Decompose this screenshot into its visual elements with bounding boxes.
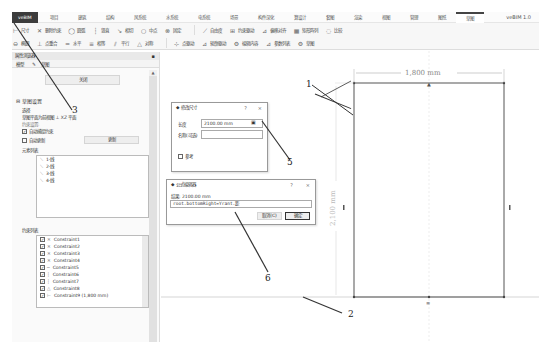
list-item[interactable]: ✓✕Constraint3 [37, 250, 148, 257]
checkbox-checked[interactable]: ✓ [40, 279, 45, 284]
param-icon: ⊿ [265, 40, 272, 47]
tab-view[interactable]: 视图 [372, 12, 400, 23]
list-item[interactable]: ✓✕Constraint4 [37, 257, 148, 264]
list-item[interactable]: ⟍2-线 [37, 163, 148, 170]
tab-project[interactable]: 项目 [40, 12, 68, 23]
tool-edit-content[interactable]: ⚙编辑内容 [233, 40, 258, 47]
list-item[interactable]: ⟍1-线 [37, 156, 148, 163]
list-item[interactable]: ⟍4-线 [37, 177, 148, 184]
close-button[interactable]: × [306, 180, 310, 190]
checkbox-checked[interactable]: ✓ [40, 244, 45, 249]
constraint-label: Constraint8 [53, 286, 79, 291]
tool-dimension[interactable]: ⊢尺寸 [12, 27, 29, 34]
pin-icon[interactable]: ▪ [152, 52, 155, 60]
tool-vertical[interactable]: ┆竖直 [92, 27, 109, 34]
tool-horizontal[interactable]: ═水平 [64, 40, 81, 47]
dimension-icon: ⊢ [12, 27, 19, 34]
tab-file[interactable]: veBIM [12, 12, 38, 23]
tab-water-system[interactable]: 水系统 [156, 12, 188, 23]
reference-checkbox[interactable]: 参考 [178, 153, 193, 159]
list-item[interactable]: ✓△Constraint8 [37, 285, 148, 292]
tool-rect-array[interactable]: ▦矩形阵列 [293, 27, 318, 34]
tool-midpoint[interactable]: ○中点 [140, 27, 157, 34]
tab-drawings[interactable]: 图纸 [428, 12, 456, 23]
checkbox-checked[interactable]: ✓ [40, 251, 45, 256]
list-scrollbar[interactable] [142, 236, 148, 307]
help-button[interactable]: ? [290, 180, 293, 190]
tool-compare[interactable]: ◌比较 [325, 27, 342, 34]
sketch-settings-header[interactable]: ⊟ 草图设置 [16, 97, 42, 104]
tab-sketch[interactable]: 草图 [456, 12, 484, 23]
tool-coincident[interactable]: ⊥点重合 [36, 40, 57, 47]
panel-tab-sketch[interactable]: ✎ 草图 [28, 61, 57, 67]
equal-icon: ≡ [88, 40, 95, 47]
help-button[interactable]: ? [244, 103, 247, 113]
panel-scrollbar[interactable]: ▲ [149, 70, 157, 342]
tab-electric-system[interactable]: 电系统 [188, 12, 220, 23]
perpendicular-icon: ✕ [47, 244, 51, 249]
callout-2: 2 [348, 309, 354, 319]
elements-list[interactable]: ⟍1-线 ⟍2-线 ⟍3-线 ⟍4-线 [36, 155, 149, 218]
checkbox-checked[interactable]: ✓ [22, 129, 27, 134]
tool-profile-driven[interactable]: ⊿轮廓驱动 [201, 40, 226, 47]
list-item[interactable]: ✓✕Constraint2 [37, 243, 148, 250]
update-button[interactable]: 更新 [84, 136, 139, 144]
formula-input[interactable]: root.bottomRight=Yrant.距 [170, 200, 312, 208]
tool-symmetric[interactable]: △对称 [136, 40, 153, 47]
close-button[interactable]: × [258, 103, 262, 113]
tool-constraint-driven[interactable]: ⊞约束驱动 [229, 27, 254, 34]
tool-arc[interactable]: ◯圆弧 [68, 27, 85, 34]
checkbox-checked[interactable]: ✓ [40, 272, 45, 277]
list-item[interactable]: ✓┆Constraint6 [37, 271, 148, 278]
tool-delete-constraint[interactable]: ✕删除约束 [36, 27, 61, 34]
checkbox-unchecked[interactable] [22, 138, 27, 143]
perpendicular-icon: ✕ [47, 251, 51, 256]
scroll-up-icon[interactable]: ▲ [149, 70, 157, 76]
height-dimension[interactable]: 2,100 mm [329, 190, 337, 226]
auto-constraint-checkbox[interactable]: ✓自动捕捉约束 [22, 128, 53, 134]
tool-equal[interactable]: ≡相等 [88, 40, 105, 47]
tab-structure[interactable]: 结构 [96, 12, 124, 23]
checkbox-checked[interactable]: ✓ [40, 286, 45, 291]
tab-design[interactable]: 算设计 [284, 12, 316, 23]
tab-air-system[interactable]: 风系统 [124, 12, 156, 23]
list-item[interactable]: ✓✕Constraint1 [37, 236, 148, 243]
tab-scene[interactable]: 场景 [220, 12, 248, 23]
tool-point-driven[interactable]: ⊹点驱动 [173, 40, 194, 47]
tool-ellipse[interactable]: ⊖椭圆 [12, 40, 29, 47]
checkbox-checked[interactable]: ✓ [40, 258, 45, 263]
tool-tangent[interactable]: ↘相切 [116, 27, 133, 34]
tool-parallel[interactable]: ⫽平行 [112, 40, 129, 47]
checkbox-unchecked[interactable] [178, 154, 183, 159]
checkbox-checked[interactable]: ✓ [40, 265, 45, 270]
list-item[interactable]: ✓┆Constraint7 [37, 278, 148, 285]
list-item[interactable]: ✓⊢Constraint9 (1,800 mm) [37, 292, 148, 299]
element-label: 1-线 [46, 157, 55, 162]
checkbox-checked[interactable]: ✓ [40, 237, 45, 242]
close-sketch-button[interactable]: 关闭 [45, 75, 120, 85]
name-input[interactable] [201, 130, 263, 139]
list-item[interactable]: ⟍3-线 [37, 170, 148, 177]
formula-button-icon[interactable]: ▣ [251, 119, 256, 125]
tab-architecture[interactable]: 建筑 [68, 12, 96, 23]
tool-sketch-settings[interactable]: ⚙草图 [297, 40, 314, 47]
width-dimension[interactable]: 1,800 mm [405, 69, 441, 77]
ok-button[interactable]: 确定 [285, 212, 310, 220]
cancel-button[interactable]: 取消(C) [257, 212, 282, 220]
panel-tab-model[interactable]: 模型 [12, 61, 28, 67]
checkbox-checked[interactable]: ✓ [40, 293, 45, 298]
auto-update-checkbox[interactable]: 自动更新 [22, 137, 45, 143]
line-icon: ⟍ [40, 171, 43, 176]
tool-label: 圆弧 [77, 27, 85, 33]
tool-param-list[interactable]: ⊿参数列表 [265, 40, 290, 47]
list-item[interactable]: ✓═Constraint5 [37, 264, 148, 271]
constraints-list[interactable]: ✓✕Constraint1 ✓✕Constraint2 ✓✕Constraint… [36, 235, 149, 308]
tab-drawing-set[interactable]: 套图 [316, 12, 344, 23]
tab-manage[interactable]: 管理 [400, 12, 428, 23]
tab-component[interactable]: 构件深化 [248, 12, 284, 23]
sketch-canvas[interactable]: ▲ ≡ 1,800 mm 2,100 mm ◆ 修改尺寸 ? × 长度 2100… [161, 51, 539, 342]
tool-offset-align[interactable]: ⊿偏移对齐 [261, 27, 286, 34]
tab-render[interactable]: 渲染 [344, 12, 372, 23]
tool-fix[interactable]: ⊗固定 [164, 27, 181, 34]
tool-dof[interactable]: ⟋自由度 [201, 27, 222, 34]
